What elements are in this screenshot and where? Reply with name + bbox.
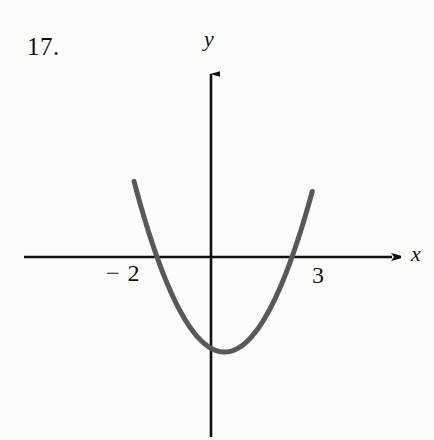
axes-group <box>24 74 392 437</box>
x-axis-label: x <box>411 243 421 265</box>
parabola-curve-group <box>134 181 312 352</box>
x-tick-label-3: 3 <box>312 263 324 287</box>
parabola-curve <box>134 181 312 352</box>
problem-number: 17. <box>27 34 60 59</box>
x-tick-label-minus-2: − 2 <box>106 261 141 285</box>
figure-page: 17. y x − 2 3 <box>0 0 434 440</box>
y-axis-label: y <box>204 28 214 50</box>
graph-figure <box>0 0 434 440</box>
